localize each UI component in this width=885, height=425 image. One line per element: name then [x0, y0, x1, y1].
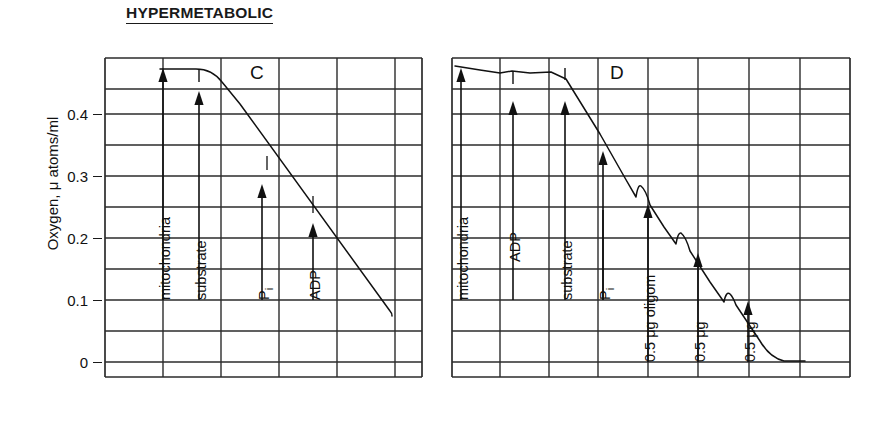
panel-d-pi-subscript: i: [604, 288, 616, 290]
panel-d-annotation-substrate: substrate: [559, 240, 575, 300]
panel-d-letter: D: [610, 62, 624, 84]
panel-d-annotation-mitochondria: mitochondria: [455, 217, 471, 300]
panel-d-annotation-adp: ADP: [507, 232, 523, 262]
panel-d-pi-text: P: [597, 290, 613, 300]
panel-d-trace: [455, 66, 805, 361]
panel-d-annotation-oligomycin-1: 0.5 μg oligom: [642, 275, 658, 362]
panel-d-annotation-pi: Pi: [597, 288, 616, 300]
panel-d-annotation-oligomycin-2: 0.5 μg: [692, 321, 708, 362]
figure-root: HYPERMETABOLIC Oxygen, μ atoms/ml 0.4 0.…: [0, 0, 885, 425]
panel-d-annotation-oligomycin-3: 0.5 μg: [742, 321, 758, 362]
panel-d-arrows: [456, 68, 752, 362]
